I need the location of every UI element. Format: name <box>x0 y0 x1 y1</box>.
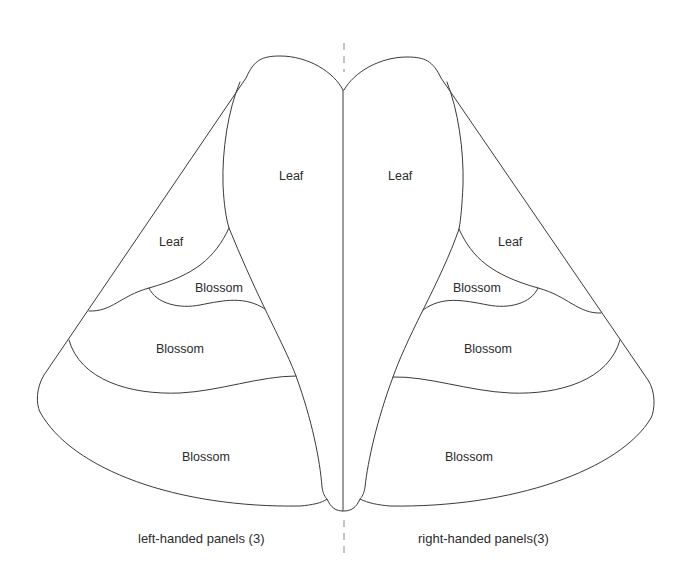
left-outer-outline <box>37 56 343 511</box>
left-upper-blossom-label: Blossom <box>195 281 243 295</box>
right-caption: right-handed panels(3) <box>418 531 549 546</box>
left-side-leaf-label: Leaf <box>159 235 184 249</box>
right-main-leaf-label: Leaf <box>388 169 413 183</box>
right-upper-blossom-label: Blossom <box>453 281 501 295</box>
left-handed-panels: Leaf Leaf Blossom Blossom Blossom left-h… <box>37 56 343 546</box>
right-middle-blossom-label: Blossom <box>464 342 512 356</box>
right-side-leaf-boundary <box>459 229 601 313</box>
right-main-leaf-edge <box>360 82 463 499</box>
pattern-diagram: Leaf Leaf Blossom Blossom Blossom left-h… <box>0 0 693 582</box>
left-middle-blossom-label: Blossom <box>156 342 204 356</box>
right-side-leaf-label: Leaf <box>498 235 523 249</box>
left-caption: left-handed panels (3) <box>138 531 264 546</box>
left-lower-blossom-label: Blossom <box>182 450 230 464</box>
left-main-leaf-label: Leaf <box>279 169 304 183</box>
right-lower-blossom-label: Blossom <box>445 450 493 464</box>
right-handed-panels: Leaf Leaf Blossom Blossom Blossom right-… <box>344 57 654 546</box>
